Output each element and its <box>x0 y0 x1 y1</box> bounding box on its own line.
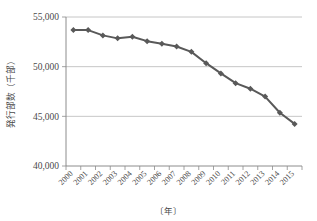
chart-background <box>0 0 317 221</box>
line-chart: 40,00045,00050,00055,000 200020012002200… <box>0 0 317 221</box>
y-axis-title: 発行部数（千部） <box>5 56 16 128</box>
chart-container: 40,00045,00050,00055,000 200020012002200… <box>0 0 317 221</box>
y-tick-label: 45,000 <box>33 112 59 122</box>
y-tick-label: 50,000 <box>33 62 59 72</box>
y-tick-label: 55,000 <box>33 12 59 22</box>
y-tick-label: 40,000 <box>33 161 59 171</box>
x-axis-title: 〔年〕 <box>155 206 182 216</box>
